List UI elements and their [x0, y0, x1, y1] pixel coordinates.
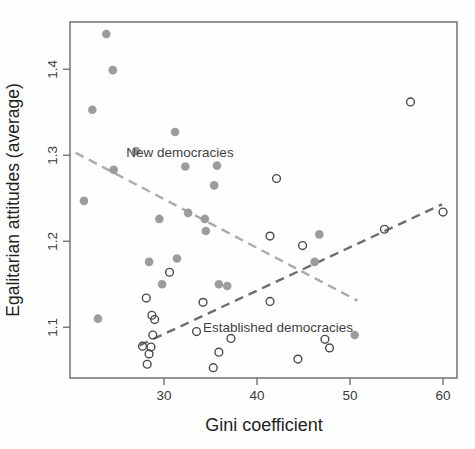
new-democracies-point [80, 197, 89, 206]
x-tick-label: 50 [343, 388, 358, 403]
y-tick-label: 1.3 [45, 146, 60, 165]
x-tick-label: 60 [436, 388, 451, 403]
new-democracies-point [310, 258, 319, 267]
scatter-plot-figure: 304050601.11.21.31.4 New democracies Est… [0, 0, 475, 449]
new-democracies-point [215, 280, 224, 289]
new-democracies-point [158, 280, 167, 289]
new-democracies-point [171, 128, 180, 137]
new-democracies-point [109, 166, 118, 175]
established-democracies-point [193, 328, 201, 336]
established-democracies-point [215, 348, 223, 356]
annotation-new-democracies: New democracies [126, 145, 234, 160]
y-tick-label: 1.2 [45, 232, 60, 251]
established-democracies-point [209, 364, 217, 372]
annotation-established-democracies: Established democracies [203, 320, 353, 335]
y-tick-label: 1.4 [45, 59, 60, 78]
new-democracies-point [88, 105, 97, 114]
y-axis-title: Egalitarian attitudes (average) [3, 83, 23, 316]
established-democracies-point [266, 298, 274, 306]
new-democracies-point [223, 282, 232, 291]
established-democracies-point [326, 344, 334, 352]
new-democracies-point [181, 162, 190, 171]
new-democracies-point [155, 215, 164, 224]
new-democracies-point [102, 30, 111, 39]
new-democracies-point [202, 227, 211, 236]
new-democracies-point [201, 215, 210, 224]
new-democracies-point [94, 314, 103, 323]
established-democracies-point [407, 98, 415, 106]
established-democracies-point [439, 208, 447, 216]
established-democracies-point [273, 175, 281, 183]
chart-svg: 304050601.11.21.31.4 New democracies Est… [0, 0, 475, 449]
new-democracies-point [315, 230, 324, 239]
new-democracies-point [173, 254, 182, 263]
established-democracies-point [199, 298, 207, 306]
new-democracies-point [108, 66, 117, 75]
established-democracies-point [166, 268, 174, 276]
new-democracies-trend-line [76, 153, 358, 301]
established-democracies-point [227, 335, 235, 343]
new-democracies-point [210, 181, 219, 190]
y-tick-label: 1.1 [45, 318, 60, 337]
established-democracies-point [142, 294, 150, 302]
new-democracies-point [213, 161, 222, 170]
established-democracies-point [149, 331, 157, 339]
new-democracies-point [184, 209, 193, 218]
established-democracies-point [299, 242, 307, 250]
established-democracies-point [266, 232, 274, 240]
established-democracies-point [294, 355, 302, 363]
established-democracies-point [143, 360, 151, 368]
established-democracies-point [321, 335, 329, 343]
new-democracies-point [145, 258, 154, 267]
x-axis-title: Gini coefficient [205, 415, 323, 435]
x-tick-label: 40 [249, 388, 264, 403]
x-tick-label: 30 [156, 388, 171, 403]
chart-generated-layer: 304050601.11.21.31.4 [45, 22, 457, 403]
